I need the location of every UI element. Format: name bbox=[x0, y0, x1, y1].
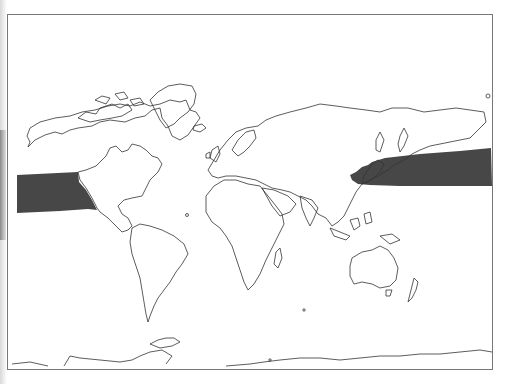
indian-ocean-island bbox=[269, 359, 271, 361]
range-band-east-pacific bbox=[17, 172, 97, 213]
coastline-tasmania bbox=[386, 290, 392, 296]
coastline-antarctica bbox=[12, 350, 492, 366]
coastline-africa bbox=[206, 180, 284, 290]
coastline-australia bbox=[350, 246, 398, 288]
coastline-southeast-asia-islands bbox=[330, 212, 400, 244]
atlantic-island bbox=[186, 214, 189, 217]
coastline-scandinavia bbox=[232, 130, 256, 156]
coastline-new-zealand bbox=[408, 278, 418, 302]
coastline-madagascar bbox=[274, 248, 282, 268]
coastline-arctic-archipelago bbox=[78, 92, 144, 122]
range-band-west-pacific bbox=[350, 148, 492, 186]
arctic-island-east bbox=[486, 94, 490, 98]
coastline-antarctic-islands bbox=[150, 338, 180, 348]
coastline-kamchatka bbox=[376, 128, 408, 152]
kerguelen-island bbox=[303, 309, 305, 311]
coastline-south-america bbox=[130, 224, 188, 322]
coastline-greenland bbox=[150, 84, 196, 128]
coastline-north-america bbox=[27, 100, 200, 232]
world-map bbox=[0, 0, 508, 384]
